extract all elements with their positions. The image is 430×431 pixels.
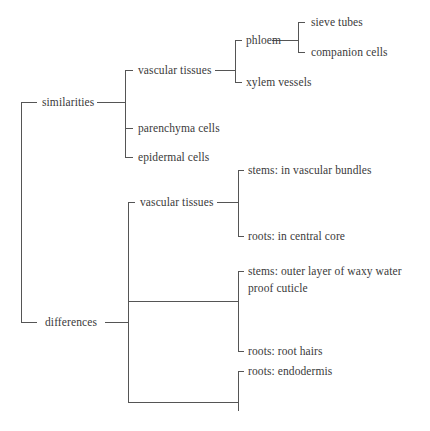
node-sieve-tubes: sieve tubes [311, 15, 363, 29]
endodermis-bracket [239, 372, 245, 412]
node-roots-endodermis: roots: endodermis [248, 364, 332, 378]
node-similarities: similarities [42, 95, 94, 109]
sim-vascular-bracket [236, 41, 243, 83]
tree-connectors [0, 0, 430, 431]
root-bracket [22, 103, 37, 323]
node-companion-cells: companion cells [311, 45, 388, 59]
node-phloem: phloem [246, 33, 281, 47]
node-parenchyma-cells: parenchyma cells [138, 121, 220, 135]
node-roots-central-core: roots: in central core [248, 229, 345, 243]
node-differences: differences [45, 315, 97, 329]
node-xylem-vessels: xylem vessels [246, 75, 312, 89]
differences-bracket [129, 203, 239, 403]
node-epidermal-cells: epidermal cells [138, 150, 209, 164]
node-roots-root-hairs: roots: root hairs [248, 344, 323, 358]
node-diff-vascular-tissues: vascular tissues [140, 195, 213, 209]
node-stems-vascular-bundles: stems: in vascular bundles [248, 163, 372, 177]
similarities-bracket [126, 71, 134, 158]
phloem-bracket [299, 23, 306, 53]
node-stems-cuticle: stems: outer layer of waxy water proof c… [248, 263, 418, 297]
node-sim-vascular-tissues: vascular tissues [138, 63, 211, 77]
diff-vascular-bracket [239, 171, 245, 237]
epidermis-bracket [239, 272, 245, 352]
